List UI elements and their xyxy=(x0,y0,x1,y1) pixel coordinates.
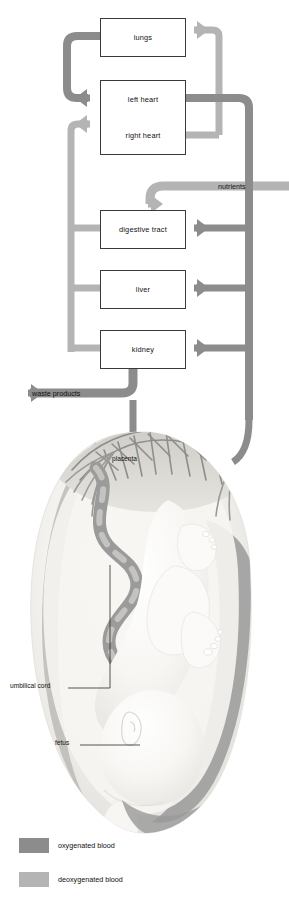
box-kidney-label: kidney xyxy=(132,345,154,354)
label-placenta-text: placenta xyxy=(112,455,137,462)
box-right-heart-label: right heart xyxy=(126,131,161,140)
legend-label-oxygenated: oxygenated blood xyxy=(58,841,115,850)
box-liver-label: liver xyxy=(136,285,150,294)
box-left-heart-label: left heart xyxy=(128,95,158,104)
box-lungs-label: lungs xyxy=(134,33,152,42)
box-liver[interactable]: liver xyxy=(100,270,186,309)
label-fetus: fetus xyxy=(55,739,69,746)
label-fetus-text: fetus xyxy=(55,739,69,746)
box-digestive-tract[interactable]: digestive tract xyxy=(100,210,186,249)
legend: oxygenated blood deoxygenated blood xyxy=(19,838,123,906)
box-kidney[interactable]: kidney xyxy=(100,330,186,369)
box-right-heart[interactable]: right heart xyxy=(100,116,186,155)
legend-item-deoxygenated: deoxygenated blood xyxy=(19,872,123,887)
legend-item-oxygenated: oxygenated blood xyxy=(19,838,123,853)
flow-label-waste-products: waste products xyxy=(32,388,80,399)
label-placenta: placenta xyxy=(112,455,137,462)
flow-label-nutrients-text: nutrients xyxy=(218,182,246,191)
legend-label-deoxygenated: deoxygenated blood xyxy=(58,875,123,884)
legend-swatch-oxygenated xyxy=(19,838,49,853)
fetal-circulation-diagram: lungs left heart right heart digestive t… xyxy=(0,0,289,913)
flow-label-waste-products-text: waste products xyxy=(32,389,80,398)
label-umbilical-cord-text: umbilical cord xyxy=(10,682,50,689)
legend-swatch-deoxygenated xyxy=(19,872,49,887)
box-lungs[interactable]: lungs xyxy=(100,18,186,57)
box-left-heart[interactable]: left heart xyxy=(100,80,186,118)
label-umbilical-cord: umbilical cord xyxy=(10,682,50,689)
box-digestive-tract-label: digestive tract xyxy=(119,225,167,234)
flow-label-nutrients: nutrients xyxy=(218,181,246,192)
